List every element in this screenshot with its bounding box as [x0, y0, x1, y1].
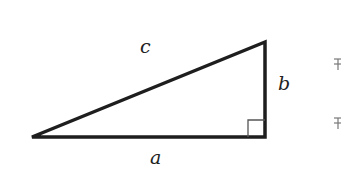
- right-triangle-diagram: c b a: [0, 0, 341, 174]
- leg-label-b: b: [278, 72, 290, 94]
- right-angle-marker: [248, 120, 265, 137]
- edge-glyph-top: [334, 59, 341, 70]
- triangle-figure: c b a: [0, 0, 341, 174]
- hypotenuse-label-c: c: [140, 35, 151, 57]
- edge-glyph-bottom: [334, 118, 341, 129]
- leg-label-a: a: [150, 146, 161, 168]
